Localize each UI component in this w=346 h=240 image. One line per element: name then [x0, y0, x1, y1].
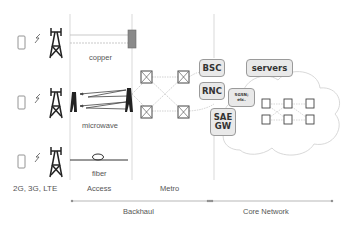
servers-label: servers — [252, 64, 288, 73]
microwave-link — [80, 90, 128, 109]
copper-label: copper — [89, 53, 112, 62]
bsc-label: BSC — [203, 64, 222, 73]
servers-node: servers — [246, 59, 293, 77]
sae-gw-node: SAE GW — [210, 108, 236, 136]
rnc-label: RNC — [202, 87, 222, 96]
sgsn-node: SGSN; etc. — [228, 88, 255, 107]
mobile-phone-icon — [18, 36, 25, 168]
span-arrows — [71, 200, 333, 202]
radio-signal-icon — [35, 34, 40, 162]
fiber-link — [70, 154, 128, 160]
core-network-cloud — [223, 72, 339, 155]
backhaul-label: Backhaul — [123, 207, 154, 216]
cell-tower-icon — [50, 28, 62, 177]
devices-label: 2G, 3G, LTE — [13, 184, 57, 193]
metro-label: Metro — [160, 184, 179, 193]
access-label: Access — [87, 184, 111, 193]
copper-link — [70, 30, 136, 48]
bsc-node: BSC — [199, 59, 225, 77]
sae-gw-label-line2: GW — [215, 122, 231, 131]
rnc-node: RNC — [199, 82, 225, 100]
sgsn-label-line2: etc. — [237, 98, 246, 102]
fiber-label: fiber — [92, 169, 107, 178]
core-network-label: Core Network — [243, 207, 289, 216]
microwave-label: microwave — [82, 121, 118, 130]
copper-terminal-icon — [128, 30, 136, 48]
